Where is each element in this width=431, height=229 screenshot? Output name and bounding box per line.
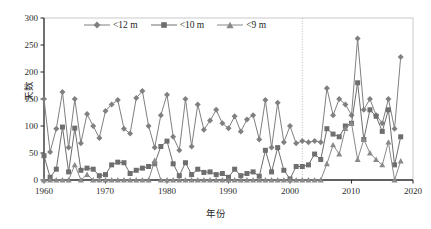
plot-area: [0, 0, 431, 229]
series-12m: [41, 36, 404, 155]
chart-container: 天数 年份 0 50 100 150 200 250 300 1960 1970…: [0, 0, 431, 229]
series-layer: [41, 36, 404, 183]
